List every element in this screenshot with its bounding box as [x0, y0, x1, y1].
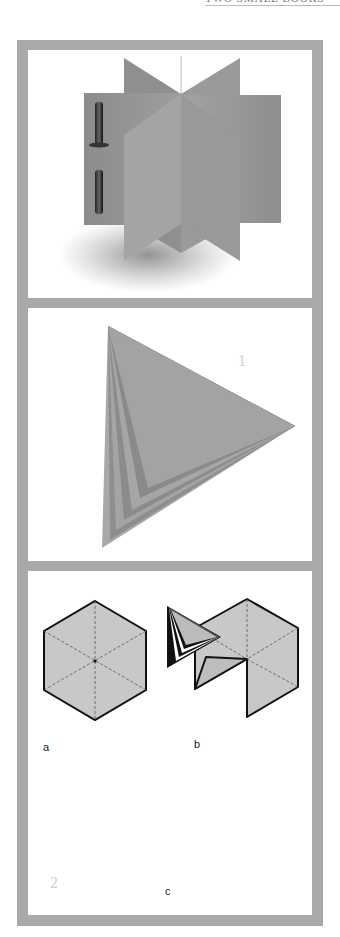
- panel-folded-triangles: 1: [28, 308, 312, 561]
- folded-triangle-stack: [28, 308, 312, 561]
- header-text: TWO SMALL BOOKS: [205, 0, 325, 4]
- header-rule: [205, 5, 340, 6]
- label-b: b: [194, 738, 200, 750]
- hexagon-a: [44, 601, 146, 720]
- panel-book-illustration: [28, 50, 312, 298]
- binding-post-top: [95, 102, 103, 144]
- book-illustration: [28, 50, 312, 298]
- hexagon-b: [195, 599, 298, 717]
- figure-number-1: 1: [238, 352, 246, 370]
- figure-number-2: 2: [50, 874, 58, 892]
- label-a: a: [43, 741, 49, 753]
- hexagon-diagrams: [28, 571, 312, 915]
- binding-post-bottom: [95, 170, 103, 214]
- panel-hexagon-steps: a b c 2: [28, 571, 312, 915]
- figure-frame: 1: [17, 40, 323, 926]
- label-c: c: [165, 885, 171, 897]
